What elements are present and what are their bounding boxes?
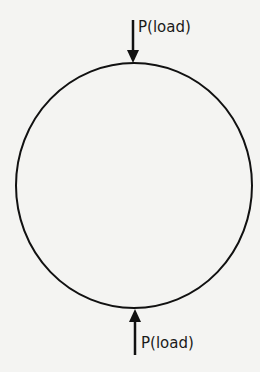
bottom-load-arrow-icon: [129, 309, 141, 355]
bottom-load-label: P(load): [141, 336, 194, 351]
circle-body: [16, 63, 252, 308]
top-load-label: P(load): [138, 20, 191, 35]
diagram-canvas: [0, 0, 260, 372]
